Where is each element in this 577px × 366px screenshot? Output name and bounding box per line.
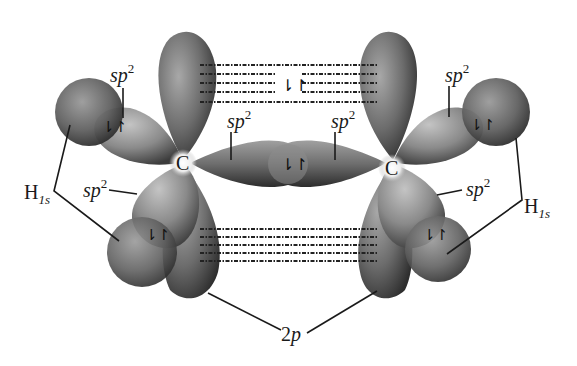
- electron-pair-sigma-cc: ⇂↾: [281, 155, 308, 174]
- h1s-label-right: H1s: [524, 195, 550, 221]
- left-carbon-label: C: [176, 152, 189, 174]
- electron-pair-ch-lower-left: ⇂↾: [145, 226, 170, 244]
- electron-pair-ch-lower-right: ⇂↾: [423, 226, 448, 244]
- sp2-label-lower-left: sp2: [83, 176, 107, 202]
- pi-bond-bottom-dashes: [200, 229, 378, 261]
- sp2-label-lower-right: sp2: [466, 175, 490, 201]
- right-carbon-label: C: [385, 157, 398, 179]
- sp2-label-center-right: sp2: [331, 107, 355, 133]
- electron-pair-ch-upper-right: ⇂↾: [470, 116, 495, 134]
- electron-pair-pi: ⇂↾: [281, 76, 308, 95]
- sp2-label-upper-right: sp2: [445, 61, 469, 87]
- ethylene-orbital-diagram: C C ⇂↾ ⇂↾ ⇂↾ ⇂↾ ⇂↾ ⇂↾ sp2 sp2 sp2 sp2 sp…: [0, 0, 577, 366]
- sp2-label-center-left: sp2: [227, 107, 251, 133]
- 2p-label: 2p: [281, 323, 301, 346]
- h1s-label-left: H1s: [24, 181, 50, 207]
- sp2-label-upper-left: sp2: [110, 61, 134, 87]
- electron-pair-ch-upper-left: ⇂↾: [102, 118, 127, 136]
- right-h1s-upper: [462, 78, 530, 146]
